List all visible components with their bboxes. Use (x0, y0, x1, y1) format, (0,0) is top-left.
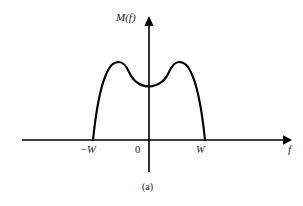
figure-caption: (a) (142, 182, 153, 192)
x-tick-label-positive-w: W (196, 145, 205, 156)
y-axis-label: M(f) (116, 12, 136, 23)
x-tick-label-negative-w: −W (80, 145, 96, 156)
x-axis-label: f (288, 144, 291, 155)
spectrum-plot (0, 0, 303, 206)
x-tick-label-zero: 0 (135, 145, 140, 156)
figure-container: M(f) f −W 0 W (a) (0, 0, 303, 206)
arrow-up-icon (144, 16, 153, 26)
